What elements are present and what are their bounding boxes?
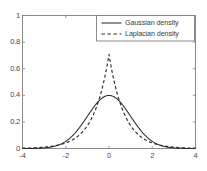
- data-series-group: [23, 54, 196, 148]
- y-tick-label: 0.6: [10, 64, 20, 73]
- series-line-gaussian: [23, 95, 196, 148]
- y-tick-label: 0.8: [10, 37, 20, 46]
- y-tick-label: 0.4: [10, 90, 20, 99]
- density-chart-figure: 00.20.40.60.81 -4-2024 Gaussian density …: [0, 0, 207, 171]
- x-tick-label: 4: [186, 151, 206, 160]
- legend-entry-laplacian: Laplacian density: [125, 29, 179, 38]
- x-tick-label: 2: [142, 151, 162, 160]
- x-tick-label: -2: [56, 151, 76, 160]
- x-tick-label: -4: [13, 151, 33, 160]
- y-tick-label: 1: [16, 11, 20, 20]
- y-tick-label: 0.2: [10, 117, 20, 126]
- legend-entry-gaussian: Gaussian density: [125, 18, 179, 27]
- series-line-laplacian: [23, 54, 196, 148]
- x-tick-label: 0: [99, 151, 119, 160]
